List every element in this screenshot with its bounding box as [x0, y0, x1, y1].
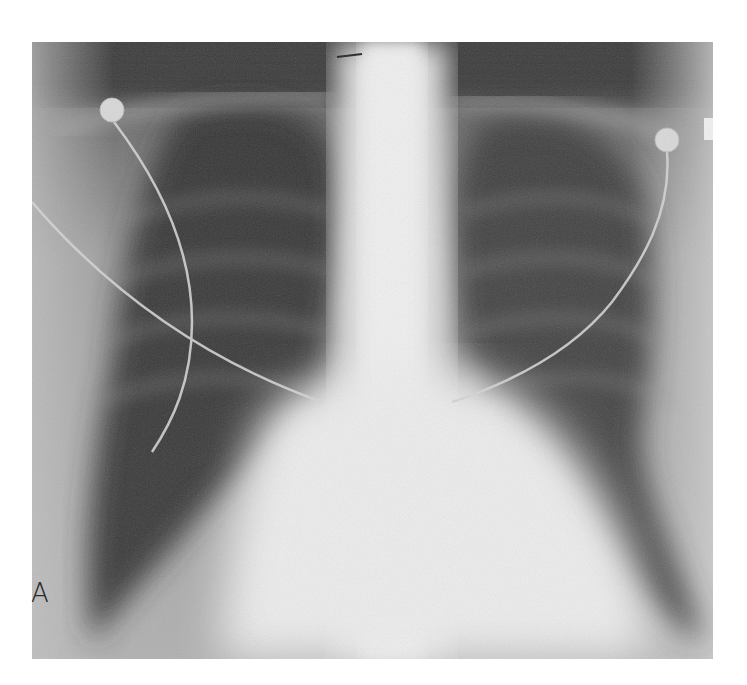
xray-rendering: [32, 42, 713, 659]
chest-xray-image: [32, 42, 713, 659]
panel-label: A: [31, 580, 49, 606]
